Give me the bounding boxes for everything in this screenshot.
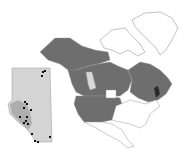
inset-point xyxy=(19,116,21,118)
inset-point xyxy=(25,120,27,122)
inset-point xyxy=(26,103,28,105)
mexico-region xyxy=(84,122,134,148)
inset-point xyxy=(23,122,25,124)
inset-point xyxy=(49,136,51,138)
inset-point xyxy=(23,107,25,109)
eastern-canada-occupied xyxy=(128,62,172,102)
inset-point xyxy=(26,116,28,118)
inset-point xyxy=(42,71,44,73)
inset-point xyxy=(24,101,26,103)
inset-point xyxy=(30,109,32,111)
alberta-inset xyxy=(8,68,52,143)
inset-point xyxy=(37,141,39,143)
unoccupied-state xyxy=(106,90,116,98)
map-canvas xyxy=(0,0,186,157)
inset-point xyxy=(27,123,29,125)
inset-point xyxy=(41,75,43,77)
inset-point xyxy=(44,70,46,72)
inset-point xyxy=(34,140,36,142)
inset-point xyxy=(31,133,33,135)
